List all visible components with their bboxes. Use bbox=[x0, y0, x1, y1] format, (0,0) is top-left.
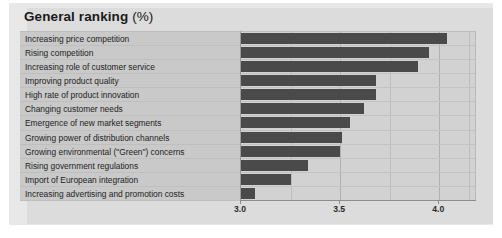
category-label-text: Emergence of new market segments bbox=[25, 118, 161, 128]
x-axis-tick-label: 3.0 bbox=[234, 204, 246, 214]
bar bbox=[241, 160, 308, 171]
category-label-row: Changing customer needs bbox=[20, 102, 240, 116]
bar-row bbox=[241, 173, 475, 187]
category-label-row: Increasing price competition bbox=[20, 32, 240, 46]
category-label-row: High rate of product innovation bbox=[20, 88, 240, 102]
category-label-text: Changing customer needs bbox=[25, 104, 123, 114]
bar bbox=[241, 89, 376, 100]
category-label-row: Growing environmental ("Green") concerns bbox=[20, 145, 240, 159]
category-label-row: Increasing advertising and promotion cos… bbox=[20, 187, 240, 201]
category-label-text: Rising government regulations bbox=[25, 161, 138, 171]
category-label-text: Growing power of distribution channels bbox=[25, 133, 169, 143]
chart-figure: General ranking (%) Increasing price com… bbox=[0, 0, 502, 238]
bar bbox=[241, 146, 340, 157]
chart-title-unit: (%) bbox=[132, 9, 153, 24]
bar bbox=[241, 33, 447, 44]
x-axis-tick-label: 3.5 bbox=[333, 204, 345, 214]
category-label-text: High rate of product innovation bbox=[25, 90, 139, 100]
bar-row bbox=[241, 32, 475, 46]
bar bbox=[241, 188, 255, 199]
bar-row bbox=[241, 187, 475, 201]
category-label-text: Growing environmental ("Green") concerns bbox=[25, 147, 185, 157]
category-label-row: Growing power of distribution channels bbox=[20, 131, 240, 145]
category-label-text: Improving product quality bbox=[25, 76, 119, 86]
bar bbox=[241, 132, 342, 143]
x-axis-tick-label: 4.0 bbox=[432, 204, 444, 214]
bar-row bbox=[241, 116, 475, 130]
category-label-row: Increasing role of customer service bbox=[20, 60, 240, 74]
bar-row bbox=[241, 102, 475, 116]
plot-area bbox=[240, 31, 476, 200]
category-label-text: Rising competition bbox=[25, 48, 93, 58]
chart-title-main: General ranking bbox=[24, 9, 128, 24]
bar bbox=[241, 174, 291, 185]
bar-row bbox=[241, 46, 475, 60]
bar bbox=[241, 103, 364, 114]
bar bbox=[241, 117, 350, 128]
category-label-row: Improving product quality bbox=[20, 74, 240, 88]
category-label-row: Import of European integration bbox=[20, 173, 240, 187]
bar bbox=[241, 47, 429, 58]
category-label-text: Import of European integration bbox=[25, 175, 138, 185]
bar-row bbox=[241, 131, 475, 145]
category-label-row: Rising competition bbox=[20, 46, 240, 60]
bar bbox=[241, 75, 376, 86]
category-label-text: Increasing advertising and promotion cos… bbox=[25, 189, 184, 199]
bar-row bbox=[241, 145, 475, 159]
bar-row bbox=[241, 74, 475, 88]
x-axis-line bbox=[240, 200, 476, 201]
category-label-row: Emergence of new market segments bbox=[20, 116, 240, 130]
chart-title: General ranking (%) bbox=[24, 9, 153, 24]
bar-row bbox=[241, 88, 475, 102]
category-label-text: Increasing price competition bbox=[25, 34, 129, 44]
bar-row bbox=[241, 159, 475, 173]
category-label-text: Increasing role of customer service bbox=[25, 62, 155, 72]
bar bbox=[241, 61, 418, 72]
category-label-row: Rising government regulations bbox=[20, 159, 240, 173]
bar-row bbox=[241, 60, 475, 74]
category-labels-column: Increasing price competitionRising compe… bbox=[20, 31, 240, 200]
